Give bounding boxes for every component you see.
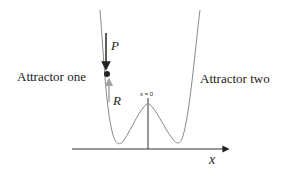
potential-curve: [100, 10, 200, 144]
label-origin: x = 0: [140, 91, 154, 97]
label-attractor-two: Attractor two: [200, 71, 270, 86]
label-attractor-one: Attractor one: [17, 69, 86, 84]
label-x-axis: x: [208, 152, 216, 167]
ball-icon: [104, 71, 110, 77]
double-well-diagram: Attractor one Attractor two x = 0 P R x: [0, 0, 294, 176]
label-p: P: [110, 38, 119, 53]
label-r: R: [112, 93, 121, 108]
